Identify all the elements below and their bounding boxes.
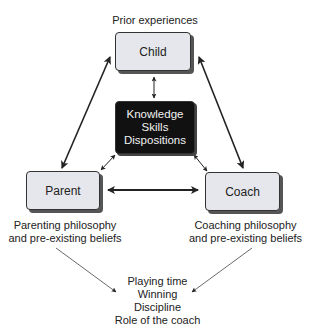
outcomes-list: Playing time Winning Discipline Role of … <box>100 275 215 327</box>
coach-node: Coach <box>205 172 280 211</box>
outcome-discipline: Discipline <box>100 301 215 314</box>
parent-annotation: Parenting philosophy and pre-existing be… <box>5 219 125 245</box>
parent-label: Parent <box>45 184 80 198</box>
outcome-role-of-coach: Role of the coach <box>100 314 215 327</box>
parent-node: Parent <box>26 171 100 210</box>
child-coach-arrow <box>199 57 243 168</box>
center-parent-arrow <box>101 155 115 170</box>
dispositions-label: Dispositions <box>124 134 186 147</box>
parent-annotation-line2: and pre-existing beliefs <box>5 232 125 245</box>
outcome-winning: Winning <box>100 288 215 301</box>
coach-annotation: Coaching philosophy and pre-existing bel… <box>183 219 308 245</box>
child-label: Child <box>139 45 166 59</box>
center-coach-arrow <box>194 155 207 171</box>
knowledge-label: Knowledge <box>127 108 184 121</box>
knowledge-skills-dispositions-node: Knowledge Skills Dispositions <box>115 101 195 154</box>
coach-annotation-line2: and pre-existing beliefs <box>183 232 308 245</box>
prior-experiences-label: Prior experiences <box>95 14 215 27</box>
child-parent-arrow <box>62 57 110 168</box>
outcome-playing-time: Playing time <box>100 275 215 288</box>
child-node: Child <box>115 32 191 71</box>
skills-label: Skills <box>142 121 169 134</box>
parent-annotation-line1: Parenting philosophy <box>5 219 125 232</box>
coach-label: Coach <box>225 185 260 199</box>
coach-annotation-line1: Coaching philosophy <box>183 219 308 232</box>
